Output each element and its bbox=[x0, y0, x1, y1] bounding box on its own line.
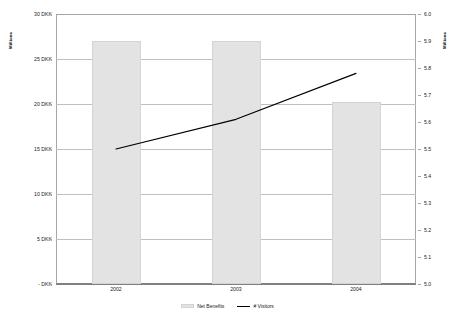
category-label: 2004 bbox=[326, 286, 386, 292]
combo-chart: Millions - DKK5 DKK10 DKK15 DKK20 DKK25 … bbox=[0, 0, 455, 316]
legend-label: # Visitors bbox=[253, 303, 273, 309]
left-axis-tick-label: 20 DKK bbox=[8, 101, 52, 107]
right-axis-tick-label: 5.6 bbox=[424, 119, 455, 125]
right-axis-title: Millions bbox=[442, 21, 447, 61]
right-axis-tick-label: 5.2 bbox=[424, 227, 455, 233]
left-axis-tick-label: 10 DKK bbox=[8, 191, 52, 197]
legend-item[interactable]: Net Benefits bbox=[181, 303, 224, 309]
right-axis-tick-label: 5.4 bbox=[424, 173, 455, 179]
right-axis-tick-label: 5.7 bbox=[424, 92, 455, 98]
left-axis-ticks: - DKK5 DKK10 DKK15 DKK20 DKK25 DKK30 DKK bbox=[0, 14, 52, 284]
right-axis-tick-label: 5.9 bbox=[424, 38, 455, 44]
category-label: 2003 bbox=[206, 286, 266, 292]
left-axis-tick-mark bbox=[49, 239, 52, 240]
right-axis-tick-mark bbox=[418, 68, 421, 69]
visitors-line-path bbox=[116, 73, 356, 149]
right-axis-tick-mark bbox=[418, 203, 421, 204]
left-axis-tick-label: 5 DKK bbox=[8, 236, 52, 242]
left-axis-tick-mark bbox=[49, 59, 52, 60]
left-axis-tick-label: 25 DKK bbox=[8, 56, 52, 62]
right-axis-tick-mark bbox=[418, 41, 421, 42]
gridline bbox=[56, 284, 416, 285]
right-axis-ticks: 5.05.15.25.35.45.55.65.75.85.96.0 bbox=[418, 14, 455, 284]
plot-area bbox=[56, 14, 416, 284]
left-axis-tick-label: 30 DKK bbox=[8, 11, 52, 17]
line-series-visitors bbox=[56, 14, 416, 284]
right-axis-tick-label: 5.3 bbox=[424, 200, 455, 206]
category-axis: 200220032004 bbox=[56, 286, 416, 298]
left-axis-tick-mark bbox=[49, 284, 52, 285]
left-axis-tick-mark bbox=[49, 194, 52, 195]
right-axis-tick-mark bbox=[418, 257, 421, 258]
legend-label: Net Benefits bbox=[197, 303, 224, 309]
right-axis-tick-mark bbox=[418, 284, 421, 285]
right-axis-tick-label: 6.0 bbox=[424, 11, 455, 17]
legend-item[interactable]: # Visitors bbox=[237, 303, 273, 309]
left-axis-tick-mark bbox=[49, 149, 52, 150]
left-axis-tick-label: - DKK bbox=[8, 281, 52, 287]
right-axis-tick-label: 5.0 bbox=[424, 281, 455, 287]
right-axis-tick-label: 5.5 bbox=[424, 146, 455, 152]
right-axis-tick-mark bbox=[418, 149, 421, 150]
left-axis-tick-mark bbox=[49, 104, 52, 105]
left-axis-tick-mark bbox=[49, 14, 52, 15]
right-axis-tick-mark bbox=[418, 95, 421, 96]
right-axis-tick-mark bbox=[418, 14, 421, 15]
legend-line-swatch-icon bbox=[237, 306, 250, 307]
right-axis-tick-label: 5.8 bbox=[424, 65, 455, 71]
right-axis-tick-mark bbox=[418, 122, 421, 123]
legend-bar-swatch-icon bbox=[181, 304, 194, 308]
right-axis-tick-mark bbox=[418, 230, 421, 231]
category-label: 2002 bbox=[86, 286, 146, 292]
right-axis-tick-label: 5.1 bbox=[424, 254, 455, 260]
left-axis-tick-label: 15 DKK bbox=[8, 146, 52, 152]
right-axis-tick-mark bbox=[418, 176, 421, 177]
chart-legend: Net Benefits# Visitors bbox=[0, 300, 455, 312]
